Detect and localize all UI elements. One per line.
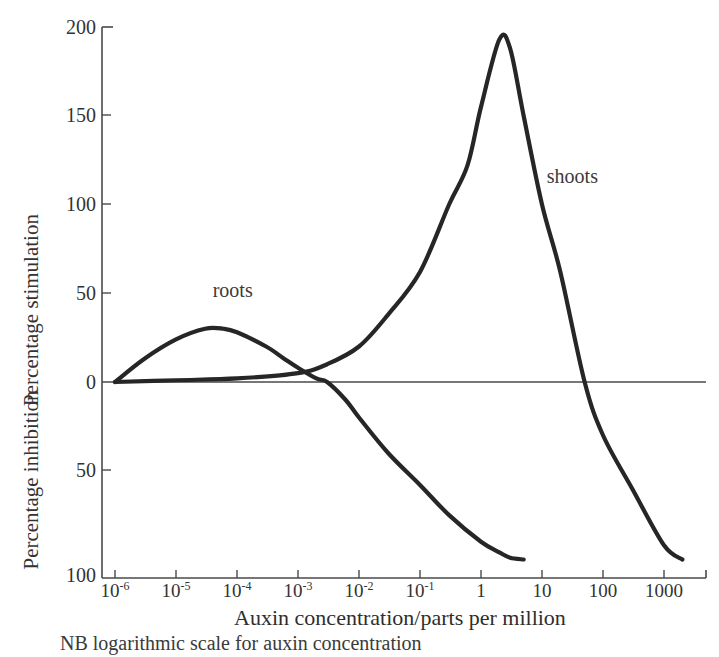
auxin-response-chart: 200 150 100 50 0 50 100 10-6 10-5 10-4 (0, 0, 719, 657)
x-tick-label-10: 10 (533, 580, 552, 601)
curve-label-shoots: shoots (547, 165, 598, 187)
y-tick-label-neg50: 50 (76, 459, 96, 481)
y-tick-label-150: 150 (66, 104, 96, 126)
x-axis-title: Auxin concentration/parts per million (234, 605, 566, 630)
y-tick-label-0: 0 (86, 371, 96, 393)
x-tick-label-1: 1 (476, 580, 486, 601)
chart-background (0, 0, 719, 657)
y-tick-label-50: 50 (76, 282, 96, 304)
chart-figure: 200 150 100 50 0 50 100 10-6 10-5 10-4 (0, 0, 719, 657)
x-tick-label-100: 100 (589, 580, 618, 601)
y-axis-title-stimulation: Percentage stimulation (19, 214, 43, 406)
y-tick-label-200: 200 (66, 16, 96, 38)
y-axis-title-inhibition: Percentage inhibition (19, 390, 43, 570)
chart-caption: NB logarithmic scale for auxin concentra… (60, 632, 422, 655)
y-tick-label-neg100: 100 (66, 564, 96, 586)
x-tick-label-1000: 1000 (645, 580, 683, 601)
y-tick-label-100: 100 (66, 193, 96, 215)
curve-label-roots: roots (213, 279, 253, 301)
